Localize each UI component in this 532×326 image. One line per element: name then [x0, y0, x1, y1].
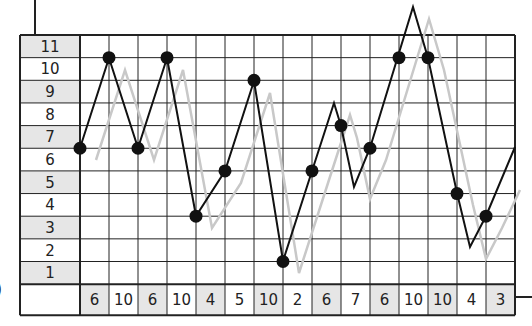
- y-tick-label: 1: [45, 264, 55, 282]
- y-tick-label: 7: [45, 128, 55, 146]
- data-point: [74, 142, 87, 155]
- category-label: 6: [380, 291, 390, 309]
- line-chart: 1110987654321 61061045102676101043: [0, 0, 532, 326]
- category-label: 10: [404, 291, 423, 309]
- y-tick-label: 10: [40, 60, 59, 78]
- data-point: [451, 187, 464, 200]
- category-label: 10: [259, 291, 278, 309]
- data-point: [277, 255, 290, 268]
- category-label: 4: [206, 291, 216, 309]
- y-tick-label: 9: [45, 83, 55, 101]
- y-tick-label: 11: [40, 38, 59, 56]
- category-label: 4: [467, 291, 477, 309]
- y-tick-label: 6: [45, 151, 55, 169]
- category-label: 10: [114, 291, 133, 309]
- y-axis-labels: 1110987654321: [40, 38, 59, 283]
- category-label: 10: [433, 291, 452, 309]
- ghost-line: [96, 19, 520, 273]
- y-tick-label: 4: [45, 196, 55, 214]
- y-tick-label: 3: [45, 219, 55, 237]
- y-tick-label: 5: [45, 174, 55, 192]
- y-tick-label: 8: [45, 106, 55, 124]
- category-label: 10: [172, 291, 191, 309]
- data-point: [480, 210, 493, 223]
- category-label: 6: [148, 291, 158, 309]
- shaded-cells: [20, 35, 515, 315]
- data-point: [306, 164, 319, 177]
- category-label: 2: [293, 291, 303, 309]
- data-point: [422, 51, 435, 64]
- x-category-labels: 61061045102676101043: [90, 291, 506, 309]
- y-tick-label: 2: [45, 242, 55, 260]
- data-point: [161, 51, 174, 64]
- data-point: [393, 51, 406, 64]
- category-label: 3: [496, 291, 506, 309]
- data-point: [364, 142, 377, 155]
- category-label: 6: [90, 291, 100, 309]
- data-point: [190, 210, 203, 223]
- data-point: [219, 164, 232, 177]
- data-point: [103, 51, 116, 64]
- category-label: 5: [235, 291, 245, 309]
- category-label: 6: [322, 291, 332, 309]
- data-point: [335, 119, 348, 132]
- data-point: [132, 142, 145, 155]
- data-point: [248, 74, 261, 87]
- category-label: 7: [351, 291, 361, 309]
